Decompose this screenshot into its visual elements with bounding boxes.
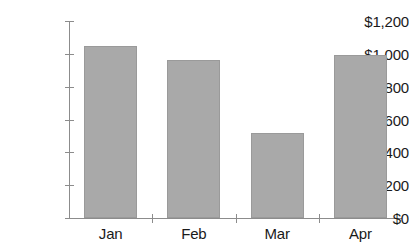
bar-feb[interactable]: [167, 60, 220, 218]
y-tick-800: [65, 87, 74, 88]
category-tick: [319, 214, 320, 223]
y-tick-1000: [65, 54, 74, 55]
bar-jan[interactable]: [84, 46, 137, 218]
x-axis-label-jan: Jan: [71, 226, 151, 241]
bar-apr[interactable]: [334, 55, 387, 218]
bar-chart: $0$200$400$600$800$1,000$1,200 JanFebMar…: [0, 0, 409, 250]
category-tick: [236, 214, 237, 223]
y-tick-400: [65, 152, 74, 153]
y-tick-1200: [65, 21, 74, 22]
x-axis-label-feb: Feb: [154, 226, 234, 241]
bar-mar[interactable]: [251, 133, 304, 218]
y-tick-0: [65, 218, 74, 219]
x-axis-label-mar: Mar: [237, 226, 317, 241]
y-tick-600: [65, 120, 74, 121]
x-axis-label-apr: Apr: [320, 226, 400, 241]
category-tick: [152, 214, 153, 223]
y-axis-label: $1,200: [347, 14, 409, 29]
y-tick-200: [65, 185, 74, 186]
